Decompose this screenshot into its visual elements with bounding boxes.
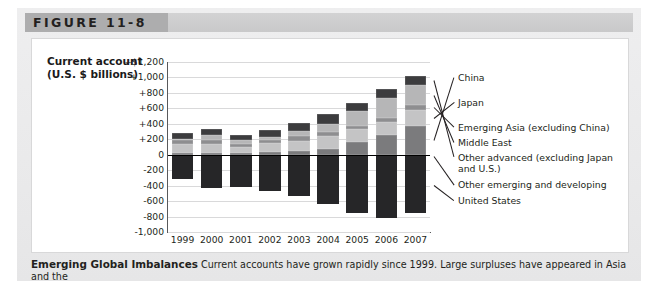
legend-item[interactable]: China bbox=[458, 72, 485, 83]
y-tick-label: +400 bbox=[139, 118, 164, 129]
bar-group[interactable] bbox=[259, 62, 281, 232]
legend-item[interactable]: Emerging Asia (excluding China) bbox=[458, 122, 610, 133]
bar-segment[interactable] bbox=[405, 126, 427, 155]
bar-segment[interactable] bbox=[201, 155, 223, 187]
y-tick-label: 0 bbox=[158, 149, 164, 160]
legend-item[interactable]: Middle East bbox=[458, 137, 512, 148]
bar-segment[interactable] bbox=[376, 122, 398, 135]
bar-segment[interactable] bbox=[405, 76, 427, 85]
bar-group[interactable] bbox=[346, 62, 368, 232]
legend-item[interactable]: Other emerging and developing bbox=[458, 179, 607, 190]
bar-segment[interactable] bbox=[288, 155, 310, 195]
bar-segment[interactable] bbox=[288, 136, 310, 141]
bar-segment[interactable] bbox=[405, 156, 427, 212]
figure-root: FIGURE 11-8 Current account (U.S. $ bill… bbox=[0, 0, 658, 289]
y-tick-label: +600 bbox=[139, 102, 164, 113]
bar-group[interactable] bbox=[376, 62, 398, 232]
y-tick-label: -200 bbox=[143, 164, 164, 175]
chart-legend: ChinaJapanEmerging Asia (excluding China… bbox=[434, 62, 630, 237]
y-tick-label: +1,000 bbox=[130, 71, 164, 82]
bar-segment[interactable] bbox=[376, 118, 398, 122]
bar-segment[interactable] bbox=[201, 144, 223, 153]
x-tick-label: 1999 bbox=[169, 234, 197, 245]
bar-segment[interactable] bbox=[172, 144, 194, 153]
bar-segment[interactable] bbox=[230, 135, 252, 141]
bar-segment[interactable] bbox=[259, 130, 281, 137]
x-tick-label: 2001 bbox=[227, 234, 255, 245]
bar-segment[interactable] bbox=[317, 124, 339, 132]
bar-segment[interactable] bbox=[346, 126, 368, 129]
figure-number-label: FIGURE 11-8 bbox=[33, 15, 147, 30]
bar-segment[interactable] bbox=[376, 156, 398, 218]
bar-segment[interactable] bbox=[201, 140, 223, 144]
bar-segment[interactable] bbox=[317, 114, 339, 124]
bar-segment[interactable] bbox=[288, 141, 310, 152]
bar-segment[interactable] bbox=[201, 135, 223, 141]
x-tick-label: 2000 bbox=[198, 234, 226, 245]
legend-item[interactable]: Other advanced (excluding Japan and U.S.… bbox=[458, 152, 626, 174]
bar-group[interactable] bbox=[405, 62, 427, 232]
bar-segment[interactable] bbox=[346, 156, 368, 214]
bar-segment[interactable] bbox=[376, 135, 398, 154]
bar-segment[interactable] bbox=[346, 142, 368, 154]
bar-segment[interactable] bbox=[230, 144, 252, 147]
bar-segment[interactable] bbox=[201, 129, 223, 135]
bar-segment[interactable] bbox=[405, 85, 427, 105]
x-tick-label: 2006 bbox=[372, 234, 400, 245]
figure-caption: Emerging Global Imbalances Current accou… bbox=[31, 258, 643, 283]
bar-segment[interactable] bbox=[405, 110, 427, 126]
bar-segment[interactable] bbox=[259, 143, 281, 152]
bar-segment[interactable] bbox=[317, 132, 339, 136]
bar-segment[interactable] bbox=[259, 156, 281, 191]
bar-group[interactable] bbox=[172, 62, 194, 232]
x-tick-label: 2004 bbox=[314, 234, 342, 245]
bar-group[interactable] bbox=[317, 62, 339, 232]
y-tick-label: +$1,200 bbox=[124, 56, 164, 67]
bar-segment[interactable] bbox=[405, 105, 427, 110]
plot-area bbox=[168, 62, 430, 232]
gridline bbox=[168, 232, 430, 233]
bar-group[interactable] bbox=[230, 62, 252, 232]
bar-segment[interactable] bbox=[376, 89, 398, 98]
bar-segment[interactable] bbox=[346, 129, 368, 142]
zero-baseline bbox=[168, 155, 430, 157]
bar-segment[interactable] bbox=[172, 133, 194, 139]
x-tick-label: 2007 bbox=[401, 234, 429, 245]
y-tick-label: -1,000 bbox=[134, 226, 164, 237]
bar-segment[interactable] bbox=[230, 140, 252, 143]
bar-segment[interactable] bbox=[259, 140, 281, 144]
y-tick-label: +200 bbox=[139, 133, 164, 144]
bar-segment[interactable] bbox=[376, 98, 398, 118]
legend-item[interactable]: Japan bbox=[458, 97, 484, 108]
legend-leader-line bbox=[434, 185, 455, 201]
bar-segment[interactable] bbox=[288, 131, 310, 136]
y-tick-label: -600 bbox=[143, 195, 164, 206]
caption-title: Emerging Global Imbalances bbox=[31, 258, 198, 270]
bar-group[interactable] bbox=[288, 62, 310, 232]
bar-segment[interactable] bbox=[172, 139, 194, 140]
y-tick-label: -400 bbox=[143, 180, 164, 191]
bar-group[interactable] bbox=[201, 62, 223, 232]
bar-segment[interactable] bbox=[259, 137, 281, 139]
bar-segment[interactable] bbox=[288, 123, 310, 131]
bar-segment[interactable] bbox=[230, 147, 252, 154]
y-tick-label: +800 bbox=[139, 87, 164, 98]
x-tick-label: 2002 bbox=[256, 234, 284, 245]
bar-segment[interactable] bbox=[317, 155, 339, 204]
x-tick-label: 2003 bbox=[285, 234, 313, 245]
legend-item[interactable]: United States bbox=[458, 195, 521, 206]
bar-segment[interactable] bbox=[172, 140, 194, 144]
bar-segment[interactable] bbox=[230, 156, 252, 187]
legend-leader-line bbox=[434, 81, 455, 158]
y-axis-tick-labels: +$1,200+1,000+800+600+400+2000-200-400-6… bbox=[100, 62, 164, 232]
bar-segment[interactable] bbox=[317, 136, 339, 149]
bar-segment[interactable] bbox=[346, 103, 368, 112]
legend-leader-line bbox=[434, 156, 455, 185]
bar-segment[interactable] bbox=[172, 156, 194, 179]
bar-segment[interactable] bbox=[346, 111, 368, 126]
x-tick-label: 2005 bbox=[343, 234, 371, 245]
y-tick-label: -800 bbox=[143, 211, 164, 222]
